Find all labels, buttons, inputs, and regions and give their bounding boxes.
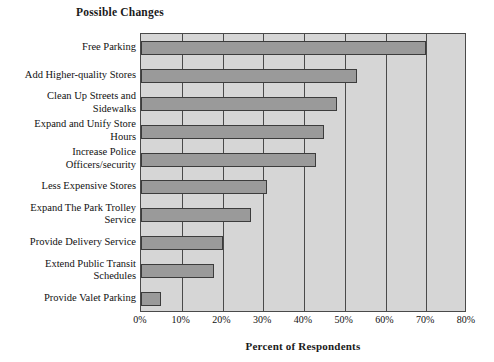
bar [141,208,251,222]
x-tick-label: 10% [172,314,190,325]
category-label: Expand The Park TrolleyService [0,202,136,227]
category-label: Less Expensive Stores [0,180,136,193]
chart-title: Possible Changes [76,6,164,18]
bar [141,264,214,278]
category-label-line: Less Expensive Stores [0,180,136,193]
category-label-line: Sidewalks [0,103,136,116]
bar [141,153,316,167]
category-label-line: Officers/security [0,159,136,172]
bar [141,236,223,250]
category-label-line: Provide Delivery Service [0,236,136,249]
category-label-line: Service [0,214,136,227]
bar [141,125,324,139]
bar [141,41,426,55]
category-label-line: Provide Valet Parking [0,292,136,305]
category-label-line: Add Higher-quality Stores [0,69,136,82]
category-label-line: Schedules [0,270,136,283]
x-tick-label: 80% [457,314,475,325]
category-label-line: Hours [0,131,136,144]
bar-chart: Possible Changes Free ParkingAdd Higher-… [0,0,494,362]
category-label-line: Free Parking [0,41,136,54]
category-label-line: Extend Public Transit [0,258,136,271]
x-tick-label: 50% [335,314,353,325]
category-label: Provide Delivery Service [0,236,136,249]
category-label: Increase PoliceOfficers/security [0,146,136,171]
category-label: Extend Public TransitSchedules [0,258,136,283]
category-label-line: Clean Up Streets and [0,90,136,103]
x-tick-label: 30% [253,314,271,325]
x-tick-label: 60% [375,314,393,325]
category-label: Clean Up Streets andSidewalks [0,90,136,115]
category-label: Free Parking [0,41,136,54]
plot-area [140,33,466,312]
x-axis-title: Percent of Respondents [140,340,466,352]
category-label: Expand and Unify StoreHours [0,118,136,143]
x-tick-label: 70% [416,314,434,325]
bar [141,69,357,83]
category-label-line: Expand The Park Trolley [0,202,136,215]
category-label: Provide Valet Parking [0,292,136,305]
bar [141,292,161,306]
category-axis-labels: Free ParkingAdd Higher-quality StoresCle… [0,33,136,312]
bars-container [141,34,465,311]
bar [141,180,267,194]
x-tick-label: 40% [294,314,312,325]
x-axis-tick-labels: 0%10%20%30%40%50%60%70%80% [140,314,466,330]
x-tick-label: 0% [133,314,146,325]
category-label: Add Higher-quality Stores [0,69,136,82]
x-tick-label: 20% [212,314,230,325]
category-label-line: Expand and Unify Store [0,118,136,131]
category-label-line: Increase Police [0,146,136,159]
bar [141,97,337,111]
